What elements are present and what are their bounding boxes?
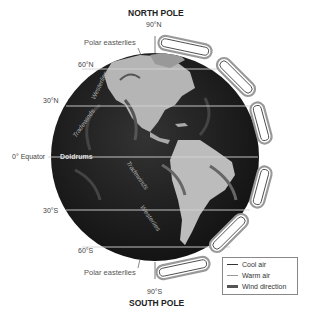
polar-easterlies-south-label: Polar easterlies xyxy=(84,268,136,277)
legend-item-cool-air: Cool air xyxy=(227,261,266,268)
warm-air-swatch-icon xyxy=(227,275,238,277)
south-pole-title: SOUTH POLE xyxy=(129,298,184,308)
lat-label-90n: 90°N xyxy=(146,21,162,28)
lat-label-90s: 90°S xyxy=(147,288,162,295)
cool-air-swatch-icon xyxy=(227,264,238,266)
doldrums-label: Doldrums xyxy=(60,153,93,160)
lat-label-60s: 60°S xyxy=(78,247,93,254)
legend: Cool air Warm air Wind direction xyxy=(222,257,298,295)
lat-label-equator: 0° Equator xyxy=(12,153,45,160)
lat-label-30n: 30°N xyxy=(43,97,59,104)
wind-direction-arrow-icon xyxy=(227,285,238,288)
lat-label-30s: 30°S xyxy=(43,207,58,214)
north-pole-title: NORTH POLE xyxy=(128,8,184,18)
lat-label-60n: 60°N xyxy=(78,61,94,68)
legend-item-warm-air: Warm air xyxy=(227,272,270,279)
legend-item-wind-direction: Wind direction xyxy=(227,283,286,290)
polar-easterlies-north-label: Polar easterlies xyxy=(84,38,136,47)
